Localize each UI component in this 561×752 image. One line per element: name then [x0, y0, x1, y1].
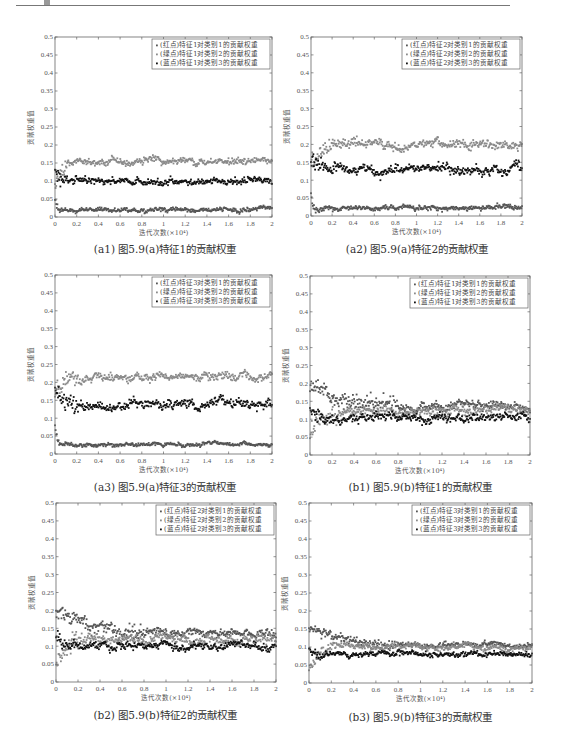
svg-text:0: 0: [307, 686, 311, 694]
chart-caption-b3: (b3) 图5.9(b)特征3的贡献权重: [295, 709, 545, 724]
svg-text:0.2: 0.2: [298, 607, 307, 615]
svg-text:1: 1: [419, 686, 423, 694]
svg-text:0.2: 0.2: [327, 686, 336, 694]
svg-text:1.4: 1.4: [461, 686, 470, 694]
svg-text:1.8: 1.8: [505, 686, 514, 694]
svg-text:0.45: 0.45: [295, 517, 308, 525]
svg-text:0.3: 0.3: [298, 571, 307, 579]
svg-text:0.05: 0.05: [295, 661, 308, 669]
legend-marker: [416, 529, 418, 531]
svg-text:0.8: 0.8: [394, 686, 403, 694]
svg-text:0.35: 0.35: [295, 553, 308, 561]
legend-entry: (红点)特征3对类别1的贡献权重: [420, 506, 518, 515]
svg-text:1.2: 1.2: [438, 686, 447, 694]
svg-text:0.15: 0.15: [295, 625, 308, 633]
svg-text:0.4: 0.4: [298, 535, 307, 543]
svg-text:0.6: 0.6: [372, 686, 381, 694]
y-axis-title: 贡献权重值: [280, 576, 289, 611]
svg-text:1.6: 1.6: [483, 686, 492, 694]
chart-svg: 00.050.10.150.20.250.30.350.40.450.500.2…: [0, 0, 561, 720]
legend-marker: [416, 511, 418, 513]
legend-entry: (蓝点)特征3对类别3的贡献权重: [420, 524, 518, 533]
svg-text:0.4: 0.4: [349, 686, 358, 694]
x-axis-title: 迭代次数(×10⁴): [396, 694, 446, 703]
legend-marker: [416, 520, 418, 522]
svg-text:0.25: 0.25: [295, 589, 308, 597]
svg-text:0.1: 0.1: [298, 643, 307, 651]
legend-entry: (绿点)特征3对类别2的贡献权重: [420, 515, 518, 524]
chart-panel-b3: 00.050.10.150.20.250.30.350.40.450.500.2…: [0, 0, 561, 720]
svg-text:0.5: 0.5: [298, 499, 307, 507]
svg-text:2: 2: [530, 686, 534, 694]
scatter-points: [308, 625, 533, 671]
legend: (红点)特征3对类别1的贡献权重(绿点)特征3对类别2的贡献权重(蓝点)特征3对…: [412, 505, 530, 535]
